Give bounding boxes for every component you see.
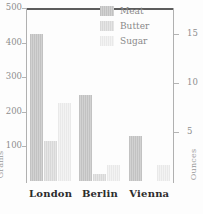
bar-meat-vienna: [129, 136, 142, 181]
left-axis: 100200300400500: [0, 0, 22, 214]
bar-meat-berlin: [79, 95, 92, 182]
x-axis-label-vienna: Vienna: [125, 188, 174, 199]
legend-item-sugar[interactable]: Sugar: [100, 34, 172, 47]
x-axis-labels: LondonBerlinVienna: [26, 188, 174, 208]
legend-label-butter: Butter: [120, 21, 149, 31]
left-axis-tick-label: 400: [2, 37, 22, 47]
right-axis-tick-label: 5: [187, 126, 192, 136]
bar-meat-london: [30, 34, 43, 181]
legend-label-sugar: Sugar: [120, 36, 147, 46]
grouped-bar-chart: 100200300400500 Grams 51015 Ounces Londo…: [0, 0, 203, 214]
right-axis-tick-label: 15: [187, 28, 198, 38]
x-axis-label-berlin: Berlin: [75, 188, 124, 199]
chart-legend: MeatButterSugar: [100, 4, 172, 49]
left-axis-tick-label: 300: [2, 71, 22, 81]
bar-sugar-london: [58, 103, 71, 181]
bar-sugar-vienna: [157, 165, 170, 181]
legend-label-meat: Meat: [120, 6, 144, 16]
legend-item-meat[interactable]: Meat: [100, 4, 172, 17]
left-axis-tick-label: 100: [2, 140, 22, 150]
left-axis-title: Grams: [0, 151, 5, 179]
bar-group: [30, 8, 74, 181]
right-axis: 51015: [181, 0, 203, 214]
legend-swatch-sugar: [100, 36, 114, 46]
bar-sugar-berlin: [107, 165, 120, 181]
left-axis-tick-label: 500: [2, 2, 22, 12]
right-axis-tick-label: 10: [187, 77, 198, 87]
right-axis-tick-mark: [174, 83, 179, 84]
x-axis-label-london: London: [26, 188, 75, 199]
left-axis-tick-label: 200: [2, 106, 22, 116]
legend-swatch-butter: [100, 21, 114, 31]
right-axis-tick-mark: [174, 34, 179, 35]
bar-butter-london: [44, 141, 57, 181]
legend-swatch-meat: [100, 6, 114, 16]
bar-butter-berlin: [93, 174, 106, 181]
legend-item-butter[interactable]: Butter: [100, 19, 172, 32]
right-axis-tick-mark: [174, 132, 179, 133]
right-axis-title: Ounces: [189, 149, 198, 180]
